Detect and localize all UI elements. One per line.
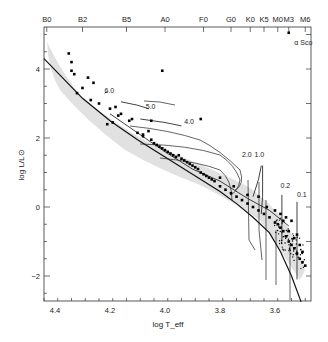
star-point: [109, 107, 112, 110]
star-point: [280, 231, 281, 232]
star-point: [304, 264, 307, 267]
top-tick-label: K0: [246, 15, 255, 24]
star-point: [175, 156, 178, 159]
star-point: [136, 132, 139, 135]
x-tick-label: 4.4: [50, 306, 60, 315]
star-point: [114, 106, 117, 109]
star-point: [219, 176, 222, 179]
star-point: [252, 206, 255, 209]
star-point: [241, 199, 244, 202]
x-tick-label: 3.8: [215, 306, 225, 315]
star-point: [293, 260, 294, 261]
star-point: [213, 180, 216, 183]
star-point: [288, 250, 289, 251]
star-point: [76, 92, 79, 95]
star-point: [296, 251, 297, 252]
star-point: [278, 226, 279, 227]
star-point: [287, 231, 288, 232]
star-point: [282, 220, 285, 223]
star-point: [296, 239, 297, 240]
star-point: [246, 202, 249, 205]
annotation-label: 0.1: [297, 191, 307, 198]
top-tick-label: M3: [284, 15, 294, 24]
left-axis-ticks: 420−2: [31, 35, 50, 294]
star-point: [290, 253, 291, 254]
star-point: [150, 138, 153, 141]
annotation-label: 6.0: [105, 87, 115, 94]
star-point: [285, 238, 286, 239]
star-point: [277, 230, 278, 231]
star-point: [279, 240, 280, 241]
star-point: [284, 242, 285, 243]
star-point: [199, 118, 202, 121]
annotation-label: 0.2: [281, 182, 291, 189]
top-tick-label: B5: [122, 15, 131, 24]
star-point: [287, 228, 288, 229]
star-point: [282, 246, 283, 247]
star-point: [279, 213, 282, 216]
star-point: [302, 253, 303, 254]
star-point: [281, 222, 282, 223]
star-point: [194, 166, 197, 169]
star-point: [169, 152, 172, 155]
x-axis-label: log T_eff: [153, 320, 185, 329]
star-point: [281, 243, 282, 244]
star-point: [283, 236, 284, 237]
y-tick-label: 2: [36, 134, 40, 143]
star-point: [285, 216, 288, 219]
top-tick-label: F0: [199, 15, 208, 24]
star-point: [199, 171, 202, 174]
star-point: [302, 262, 303, 263]
top-axis-ticks: B0B2B5A0F0G0K0K5M0M3M6: [42, 15, 310, 32]
star-point: [180, 157, 183, 160]
star-point: [268, 216, 271, 219]
star-point: [230, 192, 233, 195]
star-point: [278, 224, 279, 225]
star-point: [246, 194, 249, 197]
hr-diagram: B0B2B5A0F0G0K0K5M0M3M6 4.44.24.03.83.6 4…: [0, 0, 328, 342]
star-point: [288, 244, 289, 245]
star-point: [197, 168, 200, 171]
annotation-label: α Sco: [294, 39, 312, 46]
star-point: [293, 235, 294, 236]
star-point: [286, 230, 287, 231]
star-point: [158, 145, 161, 148]
star-point: [300, 254, 301, 255]
star-point: [111, 121, 114, 124]
star-point: [285, 235, 288, 238]
star-point: [191, 164, 194, 167]
star-point: [281, 232, 282, 233]
star-point: [292, 233, 293, 234]
star-point: [293, 250, 294, 251]
star-point: [186, 161, 189, 164]
star-point: [299, 237, 300, 238]
star-point: [166, 151, 169, 154]
x-tick-label: 4.0: [160, 306, 170, 315]
star-point: [298, 256, 299, 257]
star-point: [257, 195, 260, 198]
star-point: [302, 244, 303, 245]
annotation-label: 5.0: [146, 103, 156, 110]
star-point: [298, 244, 301, 247]
top-tick-label: G0: [226, 15, 236, 24]
star-point: [284, 249, 285, 250]
star-point: [287, 235, 288, 236]
star-point: [287, 240, 290, 243]
star-point: [117, 114, 120, 117]
star-point: [164, 149, 167, 152]
star-point: [292, 256, 293, 257]
star-point: [281, 240, 282, 241]
star-point: [274, 209, 277, 212]
star-point: [73, 73, 76, 76]
y-axis-label: log L/L⊙: [17, 149, 26, 180]
star-point: [235, 195, 238, 198]
top-tick-label: M6: [300, 15, 310, 24]
star-point: [120, 113, 123, 116]
star-point: [300, 249, 301, 250]
annotation-label: 4.0: [184, 118, 194, 125]
star-point: [289, 248, 290, 249]
star-point: [219, 185, 222, 188]
star-point: [280, 218, 281, 219]
track-2-0-msun-line: [253, 166, 261, 197]
star-point: [161, 69, 164, 72]
